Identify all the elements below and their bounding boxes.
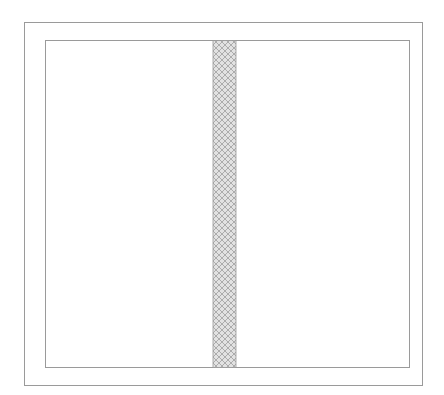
bar[interactable] <box>213 41 236 368</box>
backgammon-board <box>0 0 444 395</box>
